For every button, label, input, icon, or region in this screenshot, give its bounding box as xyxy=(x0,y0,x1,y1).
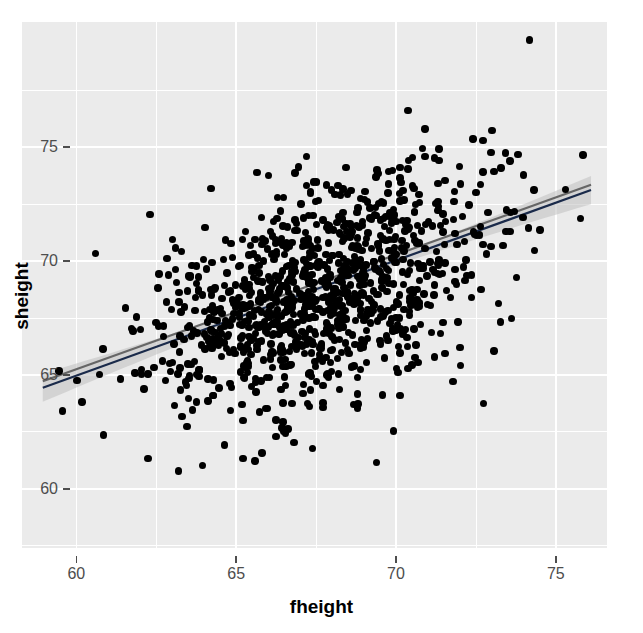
x-tick-label: 65 xyxy=(214,566,258,582)
x-axis-title: fheight xyxy=(0,596,643,618)
regression-line-layer xyxy=(22,22,607,548)
y-axis-title: sheight xyxy=(11,236,33,356)
lm-fit-line xyxy=(43,190,591,388)
plot-figure: 60657075 60657075 fheight sheight xyxy=(0,0,643,633)
y-tick-mark xyxy=(63,260,70,262)
x-tick-mark xyxy=(235,556,237,563)
y-tick-label: 60 xyxy=(14,481,58,497)
x-tick-mark xyxy=(76,556,78,563)
plot-panel xyxy=(22,22,607,548)
loess-fit-line xyxy=(43,185,591,382)
y-tick-mark xyxy=(63,374,70,376)
x-tick-label: 75 xyxy=(534,566,578,582)
x-tick-label: 60 xyxy=(54,566,98,582)
x-tick-mark xyxy=(395,556,397,563)
x-tick-label: 70 xyxy=(374,566,418,582)
y-tick-label: 65 xyxy=(14,367,58,383)
y-tick-label: 75 xyxy=(14,139,58,155)
y-tick-mark xyxy=(63,488,70,490)
x-tick-mark xyxy=(555,556,557,563)
y-tick-mark xyxy=(63,146,70,148)
